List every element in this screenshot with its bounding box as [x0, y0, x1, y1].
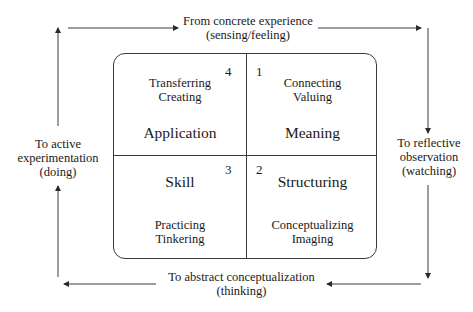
right-label-line3: (watching) — [392, 164, 466, 178]
quadrant-title: Structuring — [247, 173, 378, 191]
right-label: To reflective observation (watching) — [392, 136, 466, 178]
right-label-line2: observation — [392, 150, 466, 164]
left-label-line1: To active — [14, 137, 102, 151]
quadrant-structuring: 2 Structuring Conceptualizing Imaging — [247, 156, 378, 259]
quadrant-meaning: 1 Connecting Valuing Meaning — [247, 54, 378, 155]
quadrant-verbs: Practicing Tinkering — [114, 218, 246, 246]
quadrant-box: 4 Transferring Creating Application 1 Co… — [113, 53, 377, 259]
quadrant-verbs: Transferring Creating — [114, 76, 246, 104]
right-label-line1: To reflective — [392, 136, 466, 150]
bottom-label-line2: (thinking) — [156, 284, 327, 298]
quadrant-title: Skill — [114, 173, 246, 191]
left-label-line3: (doing) — [14, 165, 102, 179]
left-label-line2: experimentation — [14, 151, 102, 165]
top-label-line2: (sensing/feeling) — [178, 28, 318, 42]
left-label: To active experimentation (doing) — [14, 137, 102, 179]
top-label-line1: From concrete experience — [178, 14, 318, 28]
quadrant-skill: 3 Skill Practicing Tinkering — [114, 156, 246, 259]
quadrant-verbs: Conceptualizing Imaging — [247, 218, 378, 246]
bottom-label-line1: To abstract conceptualization — [156, 270, 327, 284]
top-label: From concrete experience (sensing/feelin… — [178, 14, 318, 42]
quadrant-application: 4 Transferring Creating Application — [114, 54, 246, 155]
quadrant-title: Meaning — [247, 124, 378, 142]
quadrant-verbs: Connecting Valuing — [247, 76, 378, 104]
bottom-label: To abstract conceptualization (thinking) — [156, 270, 327, 298]
quadrant-title: Application — [114, 124, 246, 142]
